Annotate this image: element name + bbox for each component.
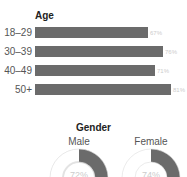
age-row-40-49: 40–49 71% [0, 65, 187, 77]
age-bar-value: 76% [165, 47, 177, 57]
female-donut: 74% [121, 148, 181, 177]
age-chart-title: Age [35, 10, 54, 21]
age-bar [35, 65, 155, 76]
age-row-50-plus: 50+ 81% [0, 84, 187, 96]
age-bar-value: 67% [150, 28, 162, 38]
gender-chart-title: Gender [0, 122, 187, 133]
female-donut-value: 74% [121, 170, 181, 177]
age-bar-value: 81% [173, 85, 185, 95]
male-label: Male [49, 136, 109, 147]
age-bar-value: 71% [157, 66, 169, 76]
age-bar [35, 27, 148, 38]
age-bar [35, 84, 171, 95]
age-row-label: 18–29 [4, 27, 32, 39]
age-row-30-39: 30–39 76% [0, 46, 187, 58]
age-row-label: 50+ [15, 84, 32, 96]
age-row-18-29: 18–29 67% [0, 27, 187, 39]
age-bar [35, 46, 163, 57]
female-label: Female [121, 136, 181, 147]
male-donut: 72% [49, 148, 109, 177]
male-donut-value: 72% [49, 170, 109, 177]
age-row-label: 40–49 [4, 65, 32, 77]
age-row-label: 30–39 [4, 46, 32, 58]
